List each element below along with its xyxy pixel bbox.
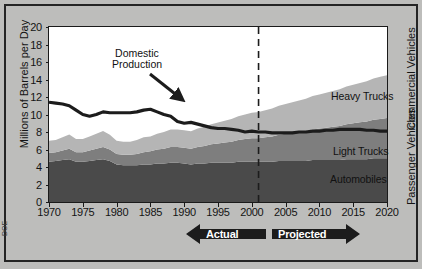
x-tick-label: 1990	[167, 206, 201, 218]
x-tick-label: 2000	[235, 206, 269, 218]
x-tick-label: 2005	[269, 206, 303, 218]
x-tick-label: 2020	[370, 206, 404, 218]
x-tick-mark	[117, 203, 118, 207]
x-tick-label: 1980	[100, 206, 134, 218]
y-tick-label: 16	[18, 57, 42, 67]
y-tick-label: 8	[18, 127, 42, 137]
x-tick-label: 2010	[302, 206, 336, 218]
x-tick-label: 1975	[66, 206, 100, 218]
source-note: DOE	[1, 221, 8, 236]
x-tick-mark	[252, 203, 253, 207]
x-tick-label: 1970	[32, 206, 66, 218]
x-tick-mark	[319, 203, 320, 207]
domestic-production-line2: Production	[112, 58, 162, 70]
y-tick-label: 20	[18, 22, 42, 32]
y-tick-label: 2	[18, 180, 42, 190]
x-tick-mark	[387, 203, 388, 207]
y-tick-label: 6	[18, 145, 42, 155]
y-tick-label: 18	[18, 40, 42, 50]
y-tick-label: 4	[18, 162, 42, 172]
series-label-heavy-trucks: Heavy Trucks	[331, 90, 393, 102]
x-tick-label: 1985	[133, 206, 167, 218]
x-tick-mark	[83, 203, 84, 207]
projected-label: Projected	[278, 228, 326, 240]
x-tick-mark	[49, 203, 50, 207]
y-tick-label: 14	[18, 75, 42, 85]
x-tick-mark	[218, 203, 219, 207]
x-tick-mark	[286, 203, 287, 207]
series-label-automobiles: Automobiles	[330, 173, 387, 185]
x-tick-label: 2015	[336, 206, 370, 218]
series-label-light-trucks: Light Trucks	[333, 145, 388, 157]
x-tick-label: 1995	[201, 206, 235, 218]
domestic-production-arrow-icon	[148, 72, 190, 106]
x-tick-mark	[184, 203, 185, 207]
figure-root: Millions of Barrels per Day 201816141210…	[0, 0, 422, 269]
domestic-production-annotation: Domestic Production	[100, 48, 174, 70]
right-axis-label-passenger: Passenger Vehicles	[405, 108, 417, 205]
y-tick-label: 12	[18, 92, 42, 102]
actual-label: Actual	[206, 228, 238, 240]
x-tick-mark	[150, 203, 151, 207]
x-tick-mark	[353, 203, 354, 207]
y-tick-label: 10	[18, 110, 42, 120]
